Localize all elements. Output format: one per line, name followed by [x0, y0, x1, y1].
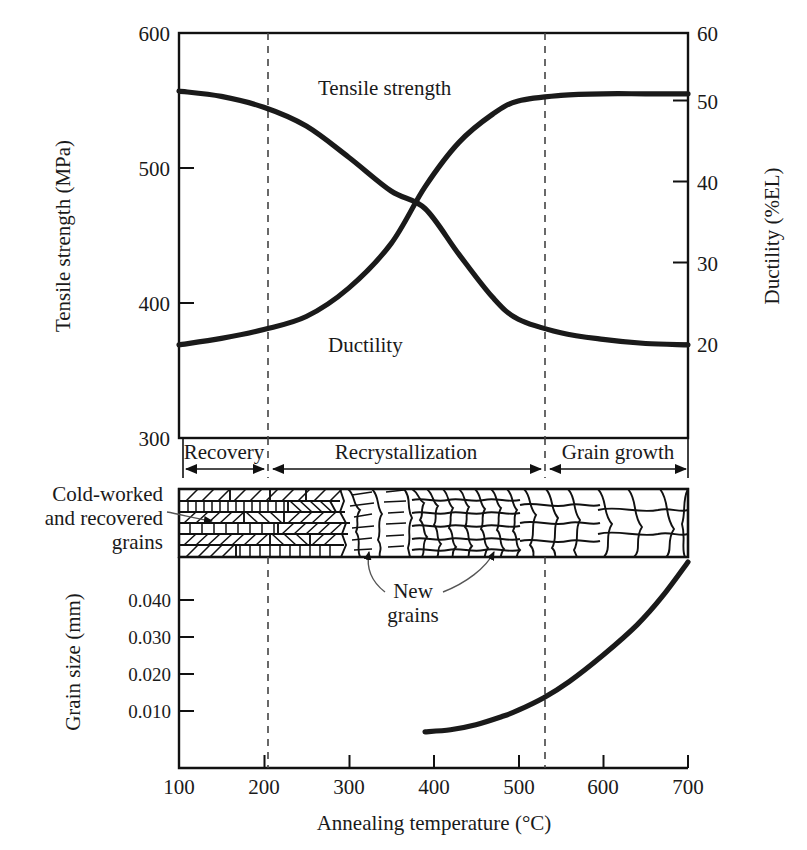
y-axis-title-grain-size: Grain size (mm) — [61, 593, 85, 731]
grain-tick-0010: 0.010 — [128, 701, 171, 722]
microstructure-band — [179, 489, 688, 557]
new-grains-line-2: grains — [387, 603, 438, 627]
figure-canvas: 600 500 400 300 60 50 40 30 20 Tensile s… — [0, 0, 807, 850]
x-axis-title: Annealing temperature (°C) — [317, 811, 552, 835]
grain-size-curve — [425, 562, 688, 732]
left-tick-600: 600 — [139, 22, 171, 46]
left-tick-300: 300 — [139, 427, 171, 451]
x-tick-500: 500 — [503, 775, 535, 799]
grain-size-plot-frame — [179, 557, 688, 768]
region-label-recovery: Recovery — [184, 440, 265, 464]
left-tick-400: 400 — [139, 292, 171, 316]
right-tick-60: 60 — [697, 22, 718, 46]
cold-worked-line-3: grains — [112, 530, 163, 554]
x-tick-300: 300 — [333, 775, 365, 799]
cold-worked-line-2: and recovered — [45, 506, 164, 530]
x-tick-700: 700 — [672, 775, 704, 799]
cold-worked-line-1: Cold-worked — [52, 482, 163, 506]
new-grains-callout: New grains — [368, 552, 494, 627]
y-axis-title-tensile: Tensile strength (MPa) — [51, 140, 75, 332]
tensile-strength-curve — [179, 91, 688, 345]
region-bar: Recovery Recrystallization Grain growth — [183, 438, 688, 478]
right-tick-30: 30 — [697, 252, 718, 276]
tensile-strength-label: Tensile strength — [318, 76, 452, 100]
y-axis-title-ductility: Ductility (%EL) — [760, 167, 784, 304]
x-tick-400: 400 — [418, 775, 450, 799]
x-tick-100: 100 — [163, 775, 195, 799]
left-tick-500: 500 — [139, 157, 171, 181]
grain-tick-0040: 0.040 — [128, 590, 171, 611]
right-tick-20: 20 — [697, 333, 718, 357]
grain-tick-0020: 0.020 — [128, 664, 171, 685]
grain-tick-0030: 0.030 — [128, 627, 171, 648]
right-tick-40: 40 — [697, 171, 718, 195]
x-tick-200: 200 — [248, 775, 280, 799]
grain-size-ticks — [179, 600, 194, 711]
x-tick-600: 600 — [587, 775, 619, 799]
left-axis-ticks — [179, 168, 194, 303]
right-axis-ticks — [673, 101, 688, 344]
region-label-grain-growth: Grain growth — [562, 440, 675, 464]
new-grains-line-1: New — [393, 579, 433, 603]
annealing-properties-figure: 600 500 400 300 60 50 40 30 20 Tensile s… — [0, 0, 807, 850]
right-tick-50: 50 — [697, 90, 718, 114]
region-label-recrystallization: Recrystallization — [335, 440, 478, 464]
ductility-label: Ductility — [328, 333, 403, 357]
x-axis-ticks — [179, 755, 688, 768]
